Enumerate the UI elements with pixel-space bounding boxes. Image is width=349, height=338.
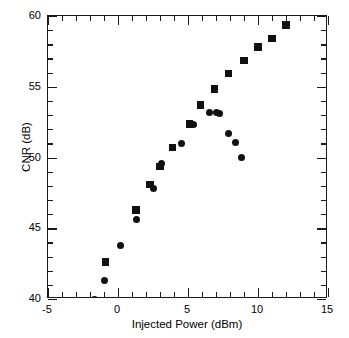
data-point-circle xyxy=(91,296,98,298)
data-point-circle xyxy=(117,242,124,249)
data-point-square xyxy=(240,57,248,65)
x-tick-major xyxy=(328,288,329,297)
data-point-circle xyxy=(225,130,232,137)
data-point-circle xyxy=(101,277,108,284)
data-point-circle xyxy=(133,216,140,223)
data-point-square xyxy=(225,70,233,78)
y-tick-right-major xyxy=(317,299,326,300)
x-tick-label: 0 xyxy=(97,303,137,315)
y-axis-title: CNR (dB) xyxy=(20,72,32,222)
data-point-circle xyxy=(206,109,213,116)
y-tick-label: 60 xyxy=(11,9,41,21)
x-tick-label: 10 xyxy=(237,303,277,315)
data-point-square xyxy=(282,21,290,29)
y-tick-label: 45 xyxy=(11,221,41,233)
y-tick-label: 40 xyxy=(11,292,41,304)
data-point-square xyxy=(156,163,164,171)
x-tick-label: 5 xyxy=(167,303,207,315)
data-point-square xyxy=(197,101,205,109)
x-tick-top-major xyxy=(328,16,329,25)
x-axis-title: Injected Power (dBm) xyxy=(47,318,327,330)
data-point-square xyxy=(102,258,110,266)
data-point-square xyxy=(268,35,276,43)
data-markers-layer xyxy=(48,16,326,297)
plot-area xyxy=(47,15,327,298)
data-point-circle xyxy=(216,110,223,117)
x-tick-label: -5 xyxy=(27,303,67,315)
data-point-square xyxy=(186,120,194,128)
y-tick-major xyxy=(48,299,57,300)
data-point-circle xyxy=(178,140,185,147)
data-point-square xyxy=(254,43,262,51)
data-point-circle xyxy=(232,139,239,146)
data-point-square xyxy=(169,144,177,152)
data-point-square xyxy=(132,206,140,214)
scatter-chart-figure: -5051015 4045505560 Injected Power (dBm)… xyxy=(0,0,349,338)
x-tick-label: 15 xyxy=(307,303,347,315)
data-point-square xyxy=(211,85,219,93)
data-point-circle xyxy=(238,154,245,161)
data-point-square xyxy=(146,181,154,189)
